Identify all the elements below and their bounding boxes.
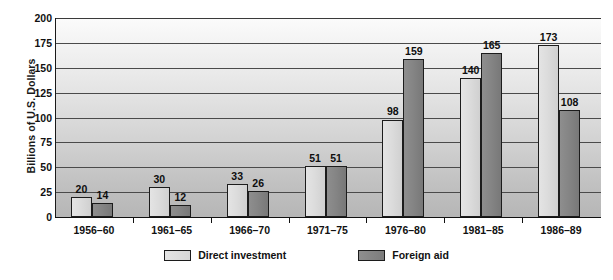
gridline: [56, 18, 601, 19]
y-axis-tick-label: 75: [18, 137, 52, 148]
bar: [326, 166, 347, 217]
legend-item-label: Direct investment: [198, 249, 286, 261]
bar-value-label: 14: [86, 190, 119, 201]
bar: [403, 59, 424, 217]
y-axis-tick-label: 25: [18, 187, 52, 198]
light-gray-swatch: [164, 250, 191, 261]
gridline: [56, 93, 601, 94]
bar: [460, 78, 481, 217]
bar-value-label: 165: [475, 40, 508, 51]
bar: [481, 53, 502, 217]
bar-value-label: 12: [164, 192, 197, 203]
bar-value-label: 51: [320, 153, 353, 164]
y-axis-tick-label: 175: [18, 38, 52, 49]
y-axis-tick-label: 100: [18, 113, 52, 124]
x-axis-tick: [289, 217, 290, 223]
x-axis-tick: [444, 217, 445, 223]
bar: [92, 203, 113, 217]
x-axis-category-label: 1971–75: [289, 224, 367, 236]
y-axis-tick-label: 0: [18, 212, 52, 223]
bar-chart: Billions of U.S. Dollars 025507510012515…: [0, 0, 613, 280]
legend-item: Foreign aid: [358, 249, 449, 261]
bar: [305, 166, 326, 217]
y-axis-tick-label: 150: [18, 63, 52, 74]
y-axis-tick-label: 200: [18, 13, 52, 24]
x-axis-tick: [366, 217, 367, 223]
bar: [170, 205, 191, 217]
y-axis-tick-labels: 0255075100125150175200: [14, 0, 52, 280]
bar-value-label: 30: [143, 174, 176, 185]
bar-value-label: 26: [242, 178, 275, 189]
x-axis-category-label: 1956–60: [55, 224, 133, 236]
bar: [538, 45, 559, 217]
x-axis-tick: [211, 217, 212, 223]
x-axis-category-label: 1976–80: [366, 224, 444, 236]
x-axis-line: [55, 217, 601, 218]
bar: [248, 191, 269, 217]
bar: [382, 120, 403, 218]
y-axis-tick-label: 50: [18, 162, 52, 173]
bar: [227, 184, 248, 217]
x-axis-category-label: 1981–85: [444, 224, 522, 236]
bar-value-label: 173: [532, 32, 565, 43]
gridline: [56, 43, 601, 44]
legend-item-label: Foreign aid: [392, 249, 449, 261]
x-axis-tick: [522, 217, 523, 223]
legend-item: Direct investment: [164, 249, 286, 261]
bar-value-label: 159: [397, 46, 430, 57]
chart-legend: Direct investmentForeign aid: [0, 249, 613, 261]
gridline: [56, 142, 601, 143]
gridline: [56, 118, 601, 119]
plot-area: 201430123326515198159140165173108: [55, 18, 601, 217]
y-axis-tick-label: 125: [18, 88, 52, 99]
x-axis-category-label: 1961–65: [133, 224, 211, 236]
x-axis-category-label: 1986–89: [522, 224, 600, 236]
bar: [559, 110, 580, 217]
bar-value-label: 108: [553, 97, 586, 108]
dark-gray-swatch: [358, 250, 385, 261]
x-axis-tick: [133, 217, 134, 223]
gridline: [56, 68, 601, 69]
x-axis-category-label: 1966–70: [211, 224, 289, 236]
